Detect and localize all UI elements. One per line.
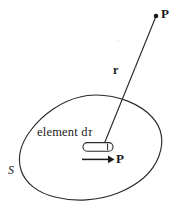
volume-element-tau-symbol: τ — [88, 125, 93, 139]
volume-element-label-text: element d — [37, 125, 88, 139]
diagram-canvas — [0, 0, 177, 209]
surface-label: S — [8, 164, 14, 176]
distance-vector-label: r — [113, 64, 118, 76]
physics-diagram-figure: P r element dτ P S — [0, 0, 177, 209]
distance-vector-line — [105, 18, 156, 144]
field-point-label: P — [161, 7, 169, 20]
polarization-label: P — [116, 152, 124, 165]
scan-speck-artifact — [117, 40, 118, 41]
volume-element-label: element dτ — [37, 126, 92, 139]
volume-element-capsule — [83, 143, 113, 152]
scan-speck-artifact — [135, 67, 137, 69]
polarization-arrow-head-icon — [108, 156, 115, 164]
field-point-dot-icon — [154, 14, 159, 19]
